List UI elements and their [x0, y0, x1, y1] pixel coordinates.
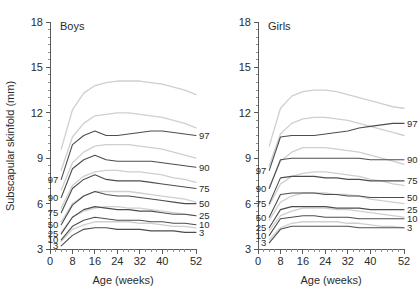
y-axis-tick-label: 3	[37, 243, 43, 255]
y-axis-tick-label: 18	[239, 16, 251, 28]
percentile-label-left-97: 97	[48, 174, 59, 185]
y-axis-tick-label: 3	[245, 243, 251, 255]
y-axis-tick-label: 6	[37, 198, 43, 210]
x-axis-tick-label: 16	[89, 255, 101, 267]
x-axis-tick-label: 40	[156, 255, 168, 267]
percentile-label-right-75: 75	[407, 175, 418, 186]
x-axis-tick-label: 0	[47, 255, 53, 267]
percentile-label-right-50: 50	[199, 198, 210, 209]
y-axis-tick-label: 15	[31, 61, 43, 73]
percentile-label-left-90: 90	[256, 183, 267, 194]
percentile-label-right-3: 3	[199, 227, 204, 238]
x-axis-tick-label: 32	[342, 255, 354, 267]
panel-title-boys: Boys	[60, 20, 85, 32]
y-axis-tick-label: 9	[37, 152, 43, 164]
percentile-label-left-75: 75	[256, 198, 267, 209]
x-axis-title: Age (weeks)	[92, 274, 153, 286]
percentile-label-right-90: 90	[199, 162, 210, 173]
y-axis-tick-label: 9	[245, 152, 251, 164]
y-axis-tick-label: 18	[31, 16, 43, 28]
percentile-label-right-90: 90	[407, 154, 418, 165]
percentile-label-left-75: 75	[48, 207, 59, 218]
x-axis-tick-label: 52	[398, 255, 410, 267]
percentile-label-left-3: 3	[261, 237, 266, 248]
percentile-label-right-97: 97	[199, 130, 210, 141]
percentile-label-left-90: 90	[48, 192, 59, 203]
percentile-label-left-3: 3	[53, 240, 58, 251]
chart-canvas: Subscapular skinfold (mm) 36912151808162…	[0, 0, 420, 293]
x-axis-tick-label: 8	[69, 255, 75, 267]
x-axis-tick-label: 52	[190, 255, 202, 267]
x-axis-tick-label: 0	[255, 255, 261, 267]
y-axis-title: Subscapular skinfold (mm)	[4, 81, 16, 211]
panel-title-girls: Girls	[268, 20, 291, 32]
percentile-label-left-50: 50	[256, 212, 267, 223]
x-axis-tick-label: 24	[319, 255, 331, 267]
percentile-label-left-97: 97	[256, 165, 267, 176]
x-axis-tick-label: 40	[364, 255, 376, 267]
x-axis-tick-label: 16	[297, 255, 309, 267]
x-axis-tick-label: 32	[134, 255, 146, 267]
y-axis-tick-label: 12	[31, 107, 43, 119]
percentile-label-right-50: 50	[407, 192, 418, 203]
percentile-label-right-97: 97	[407, 118, 418, 129]
y-axis-tick-label: 12	[239, 107, 251, 119]
percentile-label-right-3: 3	[407, 222, 412, 233]
percentile-label-right-75: 75	[199, 183, 210, 194]
x-axis-title: Age (weeks)	[300, 274, 361, 286]
y-axis-tick-label: 15	[239, 61, 251, 73]
x-axis-tick-label: 8	[277, 255, 283, 267]
y-axis-tick-label: 6	[245, 198, 251, 210]
x-axis-tick-label: 24	[111, 255, 123, 267]
growth-chart-figure: Subscapular skinfold (mm) 36912151808162…	[0, 0, 420, 293]
